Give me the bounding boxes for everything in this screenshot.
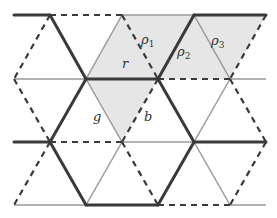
lattice-svg: r ρ1 ρ2 ρ3 g b [0, 0, 277, 218]
lattice-diagram: r ρ1 ρ2 ρ3 g b [0, 0, 277, 218]
label-r: r [122, 56, 129, 71]
label-b: b [144, 109, 152, 124]
label-g: g [93, 109, 101, 124]
